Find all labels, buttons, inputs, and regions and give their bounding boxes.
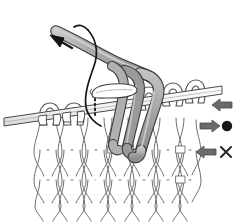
legend-row-dot[interactable]: ⇒ ● [199, 118, 231, 135]
needle-tip [90, 84, 137, 98]
knitting-diagram: ⇐ ⇒ ● ⇐ × [0, 0, 251, 224]
legend-row-needle[interactable]: ⇐ [209, 97, 227, 114]
legend-row-cross[interactable]: ⇐ × [193, 143, 225, 160]
